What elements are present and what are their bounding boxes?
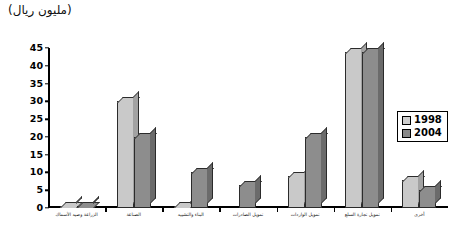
legend-swatch-2004: [402, 129, 411, 138]
bar-2004: [191, 172, 208, 208]
bar-group: [105, 48, 162, 208]
bar-2004: [77, 206, 94, 208]
bar-2004: [134, 137, 151, 208]
bar-2004: [362, 52, 379, 208]
legend-label-1998: 1998: [414, 115, 442, 125]
y-axis-tick-label: 5: [36, 185, 43, 195]
bar-group: [219, 48, 276, 208]
bar-1998: [402, 180, 419, 208]
chart-legend: 19982004: [397, 111, 448, 142]
y-axis-tick-label: 40: [30, 61, 43, 71]
y-axis-tick-label: 15: [30, 150, 43, 160]
plot-area: 454035302520151050: [48, 48, 448, 208]
y-axis-tick-label: 30: [30, 97, 43, 107]
bar-1998: [174, 206, 191, 208]
x-axis-labels: الزراعة وصيد الأسماكالصناعةالبناء والتشي…: [48, 212, 448, 217]
x-axis-category-label: تمويل تجارة السلع: [334, 212, 391, 217]
x-axis-category-label: الزراعة وصيد الأسماك: [48, 212, 105, 217]
bar-group: [48, 48, 105, 208]
y-axis-tick-label: 0: [36, 203, 43, 213]
bar-2004: [305, 137, 322, 208]
legend-entry: 2004: [402, 128, 442, 138]
bar-chart: (مليون ريال) 454035302520151050 الزراعة …: [0, 0, 470, 233]
y-axis-tick-label: 45: [30, 43, 43, 53]
bar-1998: [288, 176, 305, 208]
y-axis-tick-label: 10: [30, 168, 43, 178]
x-axis-category-label: تمويل الصادرات: [219, 212, 276, 217]
chart-unit-title: (مليون ريال): [8, 3, 72, 17]
legend-swatch-1998: [402, 116, 411, 125]
bar-2004: [419, 190, 436, 208]
y-axis-tick-label: 35: [30, 79, 43, 89]
legend-entry: 1998: [402, 115, 442, 125]
x-axis-category-label: أخرى: [391, 212, 448, 217]
bar-2004: [239, 185, 256, 208]
bar-group: [277, 48, 334, 208]
x-axis-category-label: الصناعة: [105, 212, 162, 217]
bar-1998: [117, 101, 134, 208]
bar-groups: [48, 48, 448, 208]
legend-label-2004: 2004: [414, 128, 442, 138]
x-axis-category-label: تمويل الواردات: [277, 212, 334, 217]
y-axis-tick-label: 25: [30, 114, 43, 124]
bar-1998: [345, 52, 362, 208]
bar-group: [334, 48, 391, 208]
bar-1998: [60, 206, 77, 208]
y-axis-tick-label: 20: [30, 132, 43, 142]
x-axis-category-label: البناء والتشييد: [162, 212, 219, 217]
bar-group: [162, 48, 219, 208]
